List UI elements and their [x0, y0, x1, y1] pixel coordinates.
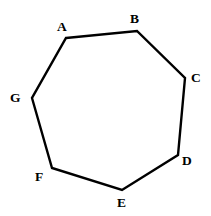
vertex-label-c: C: [191, 71, 201, 85]
vertex-label-e: E: [117, 196, 126, 210]
vertex-label-g: G: [10, 91, 21, 105]
geometry-figure-canvas: ABCDEFG: [0, 0, 211, 216]
vertex-label-f: F: [35, 170, 43, 184]
vertex-label-b: B: [130, 12, 139, 26]
heptagon-shape: [0, 0, 211, 216]
heptagon-outline: [32, 31, 185, 190]
vertex-label-d: D: [182, 154, 192, 168]
vertex-label-a: A: [57, 20, 67, 34]
